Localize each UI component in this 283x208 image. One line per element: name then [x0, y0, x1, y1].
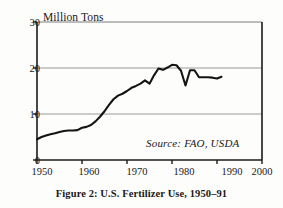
figure-container: Million Tons 30 20 10 0 1950 1960 1970 1…	[0, 0, 283, 208]
x-tick-label-1960: 1960	[69, 166, 109, 177]
x-tick-label-1980: 1980	[164, 166, 204, 177]
x-tick-label-1950: 1950	[22, 166, 62, 177]
y-tick-label-30: 30	[18, 17, 40, 28]
figure-caption: Figure 2: U.S. Fertilizer Use, 1950–91	[0, 188, 283, 199]
x-tick-label-2000: 2000	[242, 166, 282, 177]
x-tick-label-1970: 1970	[117, 166, 157, 177]
y-tick-label-0: 0	[18, 155, 40, 166]
y-tick-label-20: 20	[18, 63, 40, 74]
y-tick-label-10: 10	[18, 109, 40, 120]
source-annotation: Source: FAO, USDA	[146, 137, 240, 149]
y-axis-title: Million Tons	[43, 11, 104, 23]
data-series-line	[37, 65, 222, 140]
gridlines	[37, 22, 262, 114]
